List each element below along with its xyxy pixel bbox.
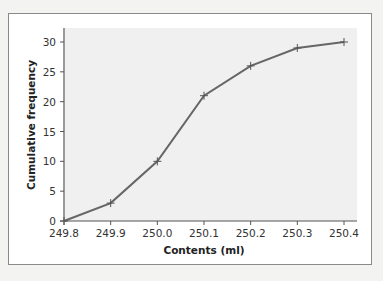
x-tick-label: 250.1 <box>189 227 219 239</box>
x-axis: 249.8249.9250.0250.1250.2250.3250.4 <box>49 221 359 239</box>
x-tick-label: 250.0 <box>142 227 172 239</box>
y-tick-label: 0 <box>49 215 56 227</box>
x-tick-label: 250.4 <box>329 227 359 239</box>
cumulative-frequency-chart: 051015202530 249.8249.9250.0250.1250.225… <box>0 0 383 281</box>
x-tick-label: 250.3 <box>282 227 312 239</box>
y-axis-title: Cumulative frequency <box>25 60 37 190</box>
x-tick-label: 249.8 <box>49 227 79 239</box>
y-tick-label: 30 <box>43 36 56 48</box>
x-axis-title: Contents (ml) <box>163 244 244 256</box>
plot-area <box>65 28 357 221</box>
x-tick-label: 250.2 <box>236 227 266 239</box>
x-tick-label: 249.9 <box>96 227 126 239</box>
y-tick-label: 20 <box>43 96 56 108</box>
y-tick-label: 15 <box>43 126 56 138</box>
y-tick-label: 10 <box>43 155 56 167</box>
y-tick-label: 25 <box>43 66 56 78</box>
y-axis: 051015202530 <box>43 28 64 227</box>
y-tick-label: 5 <box>49 185 56 197</box>
